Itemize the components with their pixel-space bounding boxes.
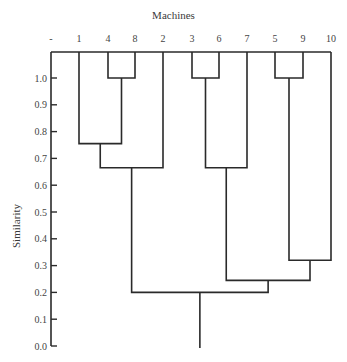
svg-text:9: 9	[301, 33, 306, 44]
svg-text:1.0: 1.0	[35, 73, 48, 84]
svg-text:8: 8	[133, 33, 138, 44]
svg-text:0.3: 0.3	[35, 260, 48, 271]
leaf-labels: -14823675910	[49, 33, 336, 44]
svg-text:10: 10	[326, 33, 336, 44]
dendrogram-plot: 0.00.10.20.30.40.50.60.70.80.91.0 -14823…	[0, 0, 347, 362]
svg-text:1: 1	[77, 33, 82, 44]
svg-text:0.6: 0.6	[35, 180, 48, 191]
svg-text:0.4: 0.4	[35, 233, 48, 244]
svg-text:-: -	[49, 33, 52, 44]
svg-text:0.7: 0.7	[35, 153, 48, 164]
dendrogram-links	[79, 52, 331, 348]
svg-text:5: 5	[273, 33, 278, 44]
svg-text:0.0: 0.0	[35, 341, 48, 352]
svg-text:0.5: 0.5	[35, 207, 48, 218]
svg-text:7: 7	[245, 33, 250, 44]
svg-text:3: 3	[190, 33, 195, 44]
svg-text:0.2: 0.2	[35, 287, 48, 298]
svg-text:2: 2	[161, 33, 166, 44]
svg-text:0.9: 0.9	[35, 99, 48, 110]
svg-text:6: 6	[217, 33, 222, 44]
svg-text:0.1: 0.1	[35, 314, 48, 325]
svg-text:0.8: 0.8	[35, 126, 48, 137]
svg-text:4: 4	[106, 33, 111, 44]
